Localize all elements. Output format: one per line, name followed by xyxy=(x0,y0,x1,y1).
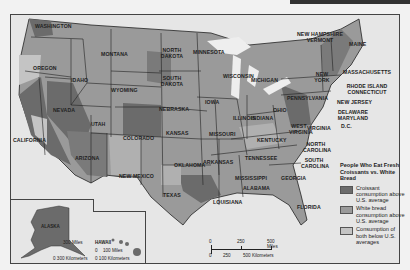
legend-label-both-below: Consumption of both below U.S. averages xyxy=(356,226,406,245)
state-label-south-dakota: SOUTH DAKOTA xyxy=(157,75,187,87)
alaska-scale-miles: 300 Miles xyxy=(63,240,83,245)
state-label-iowa: IOWA xyxy=(205,99,219,105)
legend-label-white-bread: White bread consumption above U.S. avera… xyxy=(356,205,406,224)
scale-km-250: 250 xyxy=(223,253,231,258)
state-label-kansas: KANSAS xyxy=(166,130,189,136)
state-label-minnesota: MINNESOTA xyxy=(193,49,225,55)
hawaii-inset: HAWAII 0 100 Miles 0 100 Kilometers xyxy=(93,211,146,264)
state-label-florida: FLORIDA xyxy=(297,204,321,210)
state-label-california: CALIFORNIA xyxy=(13,137,46,143)
alaska-shape xyxy=(11,200,93,264)
state-label-arizona: ARIZONA xyxy=(75,155,99,161)
state-label-hawaii: HAWAII xyxy=(95,240,111,245)
hawaii-scale-miles: 100 Miles xyxy=(103,248,123,253)
alaska-scale-km: 0 300 Kilometers xyxy=(53,256,87,261)
state-label-tennessee: TENNESSEE xyxy=(245,155,277,161)
state-label-oklahoma: OKLAHOMA xyxy=(174,162,205,168)
state-label-alaska: ALASKA xyxy=(41,224,60,229)
hawaii-scale-km: 0 100 Kilometers xyxy=(95,256,129,261)
state-label-colorado: COLORADO xyxy=(123,135,154,141)
state-label-wyoming: WYOMING xyxy=(111,87,138,93)
state-label-dc: D.C. xyxy=(341,123,352,129)
state-label-indiana: INDIANA xyxy=(251,115,273,121)
state-label-nevada: NEVADA xyxy=(53,107,75,113)
state-label-massachusetts: MASSACHUSETTS xyxy=(343,69,391,75)
state-label-missouri: MISSOURI xyxy=(209,131,235,137)
legend-item-croissant: Croissant consumption above U.S. average xyxy=(340,185,406,204)
state-label-north-carolina: NORTH CAROLINA xyxy=(303,141,329,153)
new-mexico-text: NEW MEXICO xyxy=(119,173,154,179)
state-label-ri-ct: RHODE ISLAND CONNECTICUT xyxy=(343,83,391,95)
state-label-georgia: GEORGIA xyxy=(281,175,306,181)
top-bar xyxy=(290,0,410,4)
legend-item-white-bread: White bread consumption above U.S. avera… xyxy=(340,205,406,224)
state-label-new-york: NEW YORK xyxy=(313,71,331,83)
state-label-new-mexico: NEW MEXICO xyxy=(119,173,154,179)
state-label-texas: TEXAS xyxy=(163,192,181,198)
alaska-inset: ALASKA 300 Miles 0 300 Kilometers xyxy=(11,199,94,264)
state-label-kentucky: KENTUCKY xyxy=(257,137,287,143)
state-label-arkansas: ARKANSAS xyxy=(203,159,233,165)
state-label-louisiana: LOUISIANA xyxy=(213,199,242,205)
state-label-ohio: OHIO xyxy=(273,107,287,113)
state-label-new-jersey: NEW JERSEY xyxy=(337,99,372,105)
legend-swatch-both-below xyxy=(340,227,353,235)
hawaii-scale-zero: 0 xyxy=(95,248,98,253)
state-label-west-virginia: WEST VIRGINIA xyxy=(289,123,309,135)
state-label-nh-vt: NEW HAMPSHIRE VERMONT xyxy=(295,31,345,43)
main-scale-bar: 0 250 500 Miles 0 250 500 Kilometers xyxy=(209,241,279,259)
state-label-idaho: IDAHO xyxy=(71,77,88,83)
scale-km-500: 500 Kilometers xyxy=(243,253,274,258)
scale-miles-500: 500 Miles xyxy=(267,239,279,249)
legend-swatch-croissant xyxy=(340,186,353,194)
legend-swatch-white-bread xyxy=(340,206,353,214)
legend-item-both-below: Consumption of both below U.S. averages xyxy=(340,226,406,245)
state-label-michigan: MICHIGAN xyxy=(251,77,278,83)
scale-km-0: 0 xyxy=(209,253,212,258)
state-label-utah: UTAH xyxy=(91,121,105,127)
map-legend: People Who Eat Fresh Croissants vs. Whit… xyxy=(340,162,406,247)
state-label-maine: MAINE xyxy=(349,41,366,47)
state-label-wisconsin: WISCONSIN xyxy=(223,73,254,79)
state-label-alabama: ALABAMA xyxy=(243,185,270,191)
scale-miles-0: 0 xyxy=(209,239,212,244)
state-label-mississippi: MISSISSIPPI xyxy=(235,175,267,181)
legend-title: People Who Eat Fresh Croissants vs. Whit… xyxy=(340,162,406,182)
legend-label-croissant: Croissant consumption above U.S. average xyxy=(356,185,406,204)
state-label-montana: MONTANA xyxy=(101,51,128,57)
state-label-washington: WASHINGTON xyxy=(35,23,72,29)
state-label-south-carolina: SOUTH CAROLINA xyxy=(301,157,327,169)
state-label-oregon: OREGON xyxy=(33,65,57,71)
state-label-north-dakota: NORTH DAKOTA xyxy=(157,47,187,59)
state-label-nebraska: NEBRASKA xyxy=(159,106,189,112)
state-label-pennsylvania: PENNSYLVANIA xyxy=(287,95,328,101)
state-label-de-md: DELAWARE MARYLAND xyxy=(337,109,369,121)
scale-miles-250: 250 xyxy=(237,239,245,244)
